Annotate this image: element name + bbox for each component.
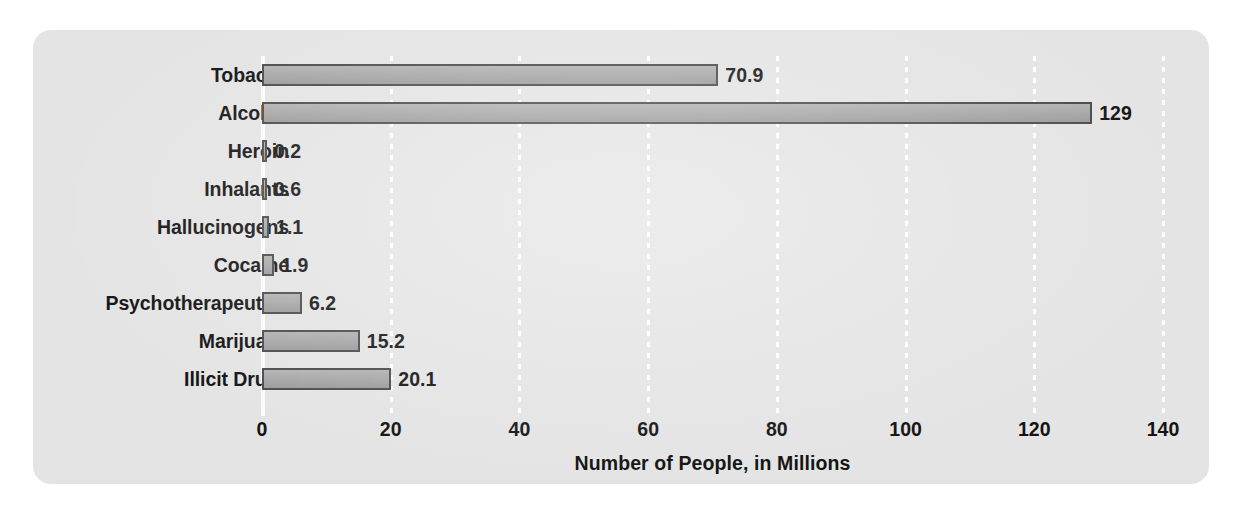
bar xyxy=(262,216,269,238)
bar xyxy=(262,254,274,276)
bar xyxy=(262,102,1092,124)
bar-container: 129 xyxy=(262,94,1209,132)
bar-container: 0.2 xyxy=(262,132,1209,170)
bar-container: 6.2 xyxy=(262,284,1209,322)
bar-container: 15.2 xyxy=(262,322,1209,360)
x-tick-label: 60 xyxy=(637,418,659,441)
bar xyxy=(262,292,302,314)
bar-value-label: 20.1 xyxy=(398,360,436,398)
figure-root: Tobacco70.9Alcohol129Heroin0.2Inhalants0… xyxy=(0,0,1236,509)
bar-row: Cocaine1.9 xyxy=(33,246,1209,284)
bar-row: Heroin0.2 xyxy=(33,132,1209,170)
bar xyxy=(262,64,718,86)
bar xyxy=(262,178,267,200)
bar xyxy=(262,140,267,162)
x-tick-label: 120 xyxy=(1018,418,1051,441)
x-tick-label: 80 xyxy=(766,418,788,441)
bar-row: Inhalants0.6 xyxy=(33,170,1209,208)
bar-row: Marijuana15.2 xyxy=(33,322,1209,360)
bar-row: Psychotherapeutics6.2 xyxy=(33,284,1209,322)
bar xyxy=(262,368,391,390)
bar-value-label: 129 xyxy=(1099,94,1132,132)
x-tick-label: 100 xyxy=(889,418,922,441)
bar-value-label: 0.6 xyxy=(274,170,301,208)
bar-row: Tobacco70.9 xyxy=(33,56,1209,94)
x-axis: 020406080100120140 xyxy=(262,418,1163,448)
x-axis-title: Number of People, in Millions xyxy=(262,452,1163,475)
bar-container: 70.9 xyxy=(262,56,1209,94)
bar-value-label: 15.2 xyxy=(367,322,405,360)
bar xyxy=(262,330,360,352)
x-tick-label: 40 xyxy=(509,418,531,441)
bar-value-label: 1.9 xyxy=(281,246,308,284)
bar-container: 0.6 xyxy=(262,170,1209,208)
bar-value-label: 70.9 xyxy=(725,56,763,94)
bar-rows: Tobacco70.9Alcohol129Heroin0.2Inhalants0… xyxy=(33,56,1209,416)
x-tick-label: 140 xyxy=(1147,418,1180,441)
bar-container: 20.1 xyxy=(262,360,1209,398)
bar-row: Alcohol129 xyxy=(33,94,1209,132)
bar-row: Illicit Drugs20.1 xyxy=(33,360,1209,398)
chart-card: Tobacco70.9Alcohol129Heroin0.2Inhalants0… xyxy=(33,30,1209,484)
bar-value-label: 0.2 xyxy=(274,132,301,170)
bar-value-label: 6.2 xyxy=(309,284,336,322)
bar-row: Hallucinogens1.1 xyxy=(33,208,1209,246)
bar-container: 1.9 xyxy=(262,246,1209,284)
x-tick-label: 0 xyxy=(257,418,268,441)
x-tick-label: 20 xyxy=(380,418,402,441)
bar-value-label: 1.1 xyxy=(276,208,303,246)
bar-container: 1.1 xyxy=(262,208,1209,246)
